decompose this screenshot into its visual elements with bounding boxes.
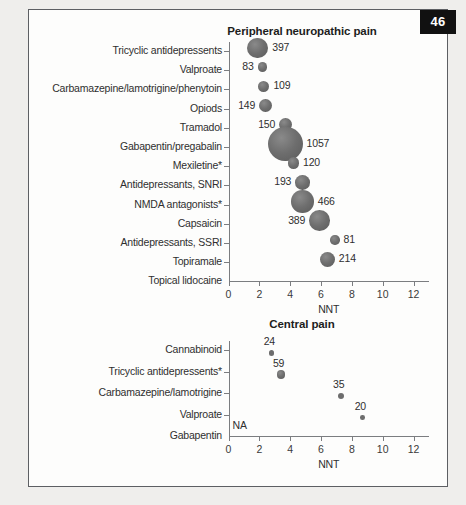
x-axis-tick <box>321 437 322 441</box>
x-axis-tick-label: 10 <box>373 288 393 300</box>
y-axis-category-label: NMDA antagonists* <box>0 198 222 210</box>
y-axis-category-label: Opiods <box>0 102 222 114</box>
x-axis-title: NNT <box>299 458 359 470</box>
y-axis-tick <box>224 185 229 186</box>
x-axis-tick <box>229 437 230 441</box>
x-axis-tick <box>259 282 260 286</box>
y-axis-tick <box>224 393 229 394</box>
y-axis-tick <box>224 205 229 206</box>
x-axis-tick <box>321 282 322 286</box>
y-axis-category-label: Tricyclic antidepressents <box>0 44 222 56</box>
data-point-label: 20 <box>355 400 366 412</box>
y-axis-tick <box>224 372 229 373</box>
y-axis-category-label: Topical lidocaine <box>0 274 222 286</box>
data-bubble <box>259 99 272 112</box>
y-axis-category-label: Capsaicin <box>0 217 222 229</box>
x-axis-tick-label: 8 <box>342 443 362 455</box>
x-axis-tick-label: 2 <box>249 288 269 300</box>
x-axis-tick-label: 8 <box>342 288 362 300</box>
data-bubble <box>268 127 302 161</box>
data-point-label: 83 <box>242 60 253 72</box>
data-bubble <box>360 415 365 420</box>
y-axis-category-label: Antidepressants, SNRI <box>0 178 222 190</box>
data-point-label: 397 <box>272 41 289 53</box>
y-axis-category-label: Topiramale <box>0 255 222 267</box>
y-axis-category-label: Tricyclic antidepressents* <box>0 365 222 377</box>
y-axis-tick <box>224 243 229 244</box>
data-point-label: 120 <box>303 156 320 168</box>
page-canvas: 46 Peripheral neuropathic pain Tricyclic… <box>0 0 466 505</box>
data-bubble <box>277 370 285 378</box>
y-axis-tick <box>224 70 229 71</box>
x-axis-tick <box>383 437 384 441</box>
y-axis-category-label: Tramadol <box>0 121 222 133</box>
x-axis-tick-label: 10 <box>373 443 393 455</box>
x-axis-tick-label: 2 <box>249 443 269 455</box>
y-axis-tick <box>224 224 229 225</box>
data-point-label: 149 <box>238 99 255 111</box>
y-axis-line <box>229 42 230 281</box>
x-axis-tick <box>290 282 291 286</box>
x-axis-tick <box>414 282 415 286</box>
x-axis-tick-label: 4 <box>280 288 300 300</box>
y-axis-category-label: Carbamazepine/lamotrigine/phenytoin <box>0 82 222 94</box>
x-axis-tick-label: 0 <box>219 288 239 300</box>
data-point-label: 35 <box>333 378 344 390</box>
chart-title-central: Central pain <box>172 318 432 330</box>
x-axis-tick-label: 0 <box>219 443 239 455</box>
data-bubble <box>320 252 335 267</box>
y-axis-category-label: Gabapentin <box>0 429 222 441</box>
y-axis-tick <box>224 147 229 148</box>
x-axis-tick <box>290 437 291 441</box>
data-point-label: 24 <box>264 335 275 347</box>
y-axis-tick <box>224 109 229 110</box>
x-axis-tick <box>259 437 260 441</box>
data-point-label: 1057 <box>307 137 330 149</box>
data-point-label: 389 <box>288 214 305 226</box>
data-point-label: 59 <box>273 357 284 369</box>
x-axis-tick <box>229 282 230 286</box>
y-axis-category-label: Mexiletine* <box>0 159 222 171</box>
data-point-label: 109 <box>273 79 290 91</box>
y-axis-line <box>229 341 230 436</box>
data-bubble <box>309 210 330 231</box>
y-axis-category-label: Valproate <box>0 63 222 75</box>
x-axis-tick <box>352 282 353 286</box>
x-axis-tick-label: 12 <box>404 288 424 300</box>
na-annotation: NA <box>233 419 247 431</box>
y-axis-tick <box>224 89 229 90</box>
x-axis-tick-label: 6 <box>311 288 331 300</box>
y-axis-tick <box>224 415 229 416</box>
x-axis-title: NNT <box>299 303 359 315</box>
data-bubble <box>295 175 310 190</box>
x-axis-tick-label: 12 <box>404 443 424 455</box>
y-axis-tick <box>224 262 229 263</box>
y-axis-category-label: Cannabinoid <box>0 343 222 355</box>
y-axis-tick <box>224 166 229 167</box>
data-point-label: 81 <box>344 233 355 245</box>
y-axis-tick <box>224 350 229 351</box>
x-axis-tick <box>414 437 415 441</box>
y-axis-tick <box>224 51 229 52</box>
data-bubble <box>330 235 339 244</box>
y-axis-tick <box>224 128 229 129</box>
x-axis-tick <box>383 282 384 286</box>
data-point-label: 193 <box>274 175 291 187</box>
chart-title-peripheral: Peripheral neuropathic pain <box>172 25 432 37</box>
data-bubble <box>291 190 314 213</box>
y-axis-category-label: Gabapentin/pregabalin <box>0 140 222 152</box>
data-point-label: 466 <box>318 195 335 207</box>
data-bubble <box>288 157 300 169</box>
x-axis-tick-label: 6 <box>311 443 331 455</box>
y-axis-category-label: Carbamazepine/lamotrigine <box>0 386 222 398</box>
data-bubble <box>269 350 274 355</box>
x-axis-tick <box>352 437 353 441</box>
x-axis-tick-label: 4 <box>280 443 300 455</box>
y-axis-category-label: Antidepressants, SSRI <box>0 236 222 248</box>
data-bubble <box>258 62 268 72</box>
y-axis-category-label: Valproate <box>0 408 222 420</box>
data-point-label: 150 <box>258 118 275 130</box>
data-point-label: 214 <box>339 252 356 264</box>
